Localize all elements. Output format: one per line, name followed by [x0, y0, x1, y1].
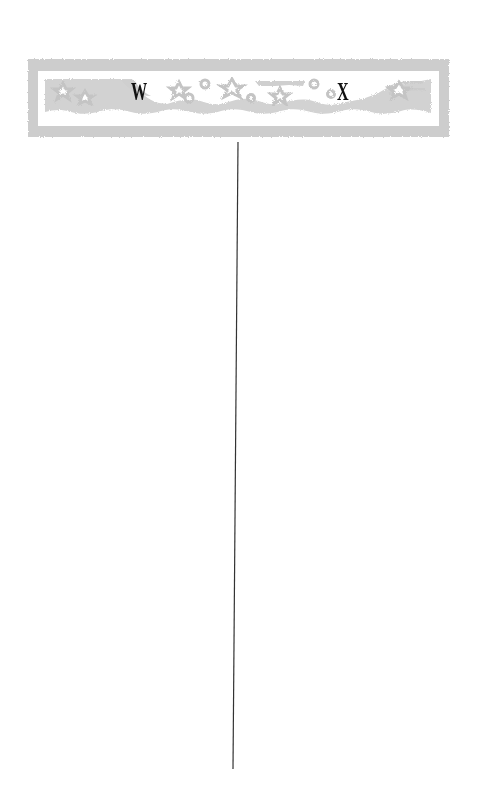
decorative-letter-banner: W X [27, 58, 450, 138]
letter-w-heading: W [131, 79, 147, 105]
left-column-area [0, 142, 235, 769]
letter-x-heading: X [337, 79, 349, 105]
right-column-area [238, 142, 483, 769]
starry-wave-border-icon [27, 58, 450, 138]
worksheet-page: W X [0, 0, 483, 794]
